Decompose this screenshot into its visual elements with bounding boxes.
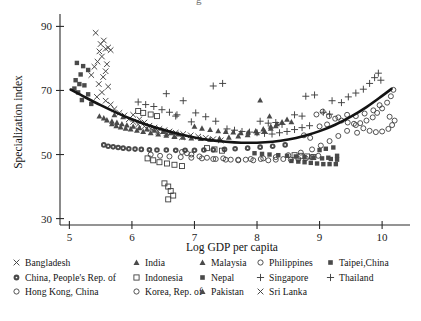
legend-item-india[interactable]: India	[132, 258, 196, 268]
point-square-fill	[302, 155, 306, 159]
legend-item-label: Philippines	[269, 258, 313, 268]
legend-item-nepal[interactable]: Nepal	[198, 273, 254, 283]
x-tick-label: 6	[129, 231, 135, 243]
y-tick-label: 70	[41, 84, 53, 96]
legend-item-indonesia[interactable]: Indonesia	[132, 273, 196, 283]
point-square-fill	[252, 151, 256, 155]
point-plus	[327, 274, 333, 280]
point-square-fill	[328, 260, 333, 265]
point-square-fill	[311, 156, 315, 160]
x-tick-label: 10	[377, 231, 389, 243]
legend-marker-swatch	[198, 273, 207, 282]
legend-marker-cross-x	[256, 287, 265, 296]
legend-marker-swatch	[12, 273, 21, 282]
point-cross-x	[258, 289, 263, 294]
point-circle-dot-center	[165, 149, 167, 151]
legend-item-label: Thailand	[339, 273, 374, 283]
point-circle-dot-center	[212, 149, 214, 151]
point-triangle-fill	[200, 260, 206, 266]
point-square-fill	[329, 157, 333, 161]
point-square-fill	[86, 92, 90, 96]
legend-marker-swatch	[132, 258, 141, 267]
point-square-fill	[80, 98, 84, 102]
legend-item-sri-lanka[interactable]: Sri Lanka	[256, 287, 324, 297]
y-axis-title: Specialization index	[12, 75, 25, 169]
legend-marker-swatch	[198, 258, 207, 267]
point-circle-dot-center	[149, 149, 151, 151]
legend-grid: BangladeshIndiaMalaysiaPhilippinesTaipei…	[12, 258, 412, 297]
legend-item-bangladesh[interactable]: Bangladesh	[12, 258, 130, 268]
legend-item-korea-rep-of[interactable]: Korea, Rep. of	[132, 287, 196, 297]
legend-item-china-people-s-rep-of[interactable]: China, People's Rep. of	[12, 273, 130, 283]
legend-item-label: Pakistan	[211, 287, 244, 297]
legend-marker-circle-dot	[12, 273, 21, 282]
legend-item-label: Bangladesh	[25, 258, 70, 268]
point-square-fill	[267, 152, 271, 156]
legend-item-label: Nepal	[211, 273, 234, 283]
chart-legend: BangladeshIndiaMalaysiaPhilippinesTaipei…	[12, 258, 412, 297]
point-square-fill	[334, 162, 338, 166]
x-tick-label: 9	[317, 231, 323, 243]
y-tick-label: 90	[41, 20, 53, 32]
point-square-fill	[82, 83, 86, 87]
legend-item-thailand[interactable]: Thailand	[326, 273, 402, 283]
point-circle-dot-center	[112, 146, 114, 148]
point-square-fill	[321, 162, 325, 166]
legend-item-hong-kong-china[interactable]: Hong Kong, China	[12, 287, 130, 297]
legend-marker-swatch	[256, 287, 265, 296]
point-square-fill	[315, 161, 319, 165]
legend-item-label: Korea, Rep. of	[145, 287, 202, 297]
legend-marker-swatch	[256, 273, 265, 282]
point-circle-dot-center	[175, 150, 177, 152]
point-circle-dot-center	[134, 148, 136, 150]
point-circle-open	[14, 289, 19, 294]
legend-marker-swatch	[256, 258, 265, 267]
legend-item-singapore[interactable]: Singapore	[256, 273, 324, 283]
point-circle-open	[134, 289, 139, 294]
point-circle-dot-center	[122, 147, 124, 149]
chart-figure: g 305070905678910 Log GDP per capita Spe…	[0, 0, 421, 321]
point-circle-dot-center	[16, 277, 18, 279]
point-square-fill	[331, 145, 335, 149]
legend-marker-square-fill	[198, 273, 207, 282]
legend-marker-swatch	[326, 258, 335, 267]
legend-marker-square-open	[132, 273, 141, 282]
legend-item-label: Singapore	[269, 273, 308, 283]
point-square-fill	[317, 148, 321, 152]
cropped-title-fragment: g	[196, 0, 202, 5]
point-square-fill	[276, 153, 280, 157]
point-circle-dot-center	[117, 147, 119, 149]
point-circle-open	[258, 260, 263, 265]
point-square-fill	[260, 152, 264, 156]
legend-marker-triangle-fill	[198, 287, 207, 296]
point-square-fill	[81, 64, 85, 68]
legend-item-malaysia[interactable]: Malaysia	[198, 258, 254, 268]
legend-marker-swatch	[12, 258, 21, 267]
point-square-fill	[309, 161, 313, 165]
point-circle-dot-center	[107, 145, 109, 147]
legend-marker-circle-open	[12, 287, 21, 296]
legend-item-philippines[interactable]: Philippines	[256, 258, 324, 268]
point-triangle-fill	[200, 289, 206, 295]
x-axis-title: Log GDP per capita	[186, 241, 278, 254]
point-square-fill	[327, 162, 331, 166]
point-circle-dot-center	[234, 148, 236, 150]
legend-item-label: Hong Kong, China	[25, 287, 99, 297]
point-square-fill	[75, 61, 79, 65]
legend-item-label: Sri Lanka	[269, 287, 307, 297]
legend-marker-swatch	[198, 287, 207, 296]
point-circle-dot-center	[156, 149, 158, 151]
point-circle-dot-center	[194, 150, 196, 152]
x-tick-label: 5	[67, 231, 73, 243]
point-square-fill	[320, 156, 324, 160]
legend-item-taipei-china[interactable]: Taipei,China	[326, 258, 402, 268]
legend-marker-swatch	[326, 273, 335, 282]
legend-marker-swatch	[132, 287, 141, 296]
point-square-fill	[73, 78, 77, 82]
point-circle-dot-center	[103, 144, 105, 146]
legend-marker-cross-x	[12, 258, 21, 267]
point-square-fill	[86, 68, 90, 72]
legend-marker-circle-open	[256, 258, 265, 267]
point-cross-x	[14, 260, 19, 265]
legend-item-pakistan[interactable]: Pakistan	[198, 287, 254, 297]
